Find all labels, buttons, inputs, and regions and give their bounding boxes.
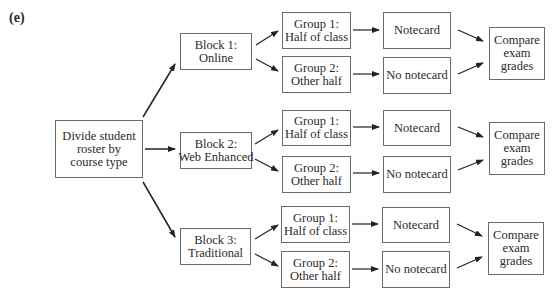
block-2-type: Web Enhanced: [179, 151, 254, 164]
flowchart-canvas: (e) Divide student roster by course type…: [0, 0, 553, 293]
b2-group-2-desc: Other half: [291, 175, 342, 188]
b2-group-1-desc: Half of class: [285, 128, 348, 141]
b2-group-2: Group 2: Other half: [282, 156, 351, 193]
block-1-online: Block 1: Online: [180, 33, 252, 70]
b2-notecard: Notecard: [383, 110, 451, 146]
b3-group-2: Group 2: Other half: [281, 251, 350, 288]
b2-no-notecard-label: No notecard: [386, 168, 447, 181]
b1-group-2-desc: Other half: [291, 75, 342, 88]
root-line-1: Divide student: [62, 130, 135, 143]
b3-no-notecard: No notecard: [382, 251, 450, 288]
b3-group-1-title: Group 1:: [293, 212, 338, 225]
b1-group-1-title: Group 1:: [294, 18, 339, 31]
b2-notecard-label: Notecard: [394, 122, 440, 135]
b3-notecard: Notecard: [382, 207, 450, 243]
b3-no-notecard-label: No notecard: [385, 263, 446, 276]
b3-compare-grades: Compare exam grades: [488, 222, 544, 275]
block-2-title: Block 2:: [195, 138, 238, 151]
b3-group-1-desc: Half of class: [284, 225, 347, 238]
root-line-3: course type: [70, 156, 127, 169]
block-3-traditional: Block 3: Traditional: [180, 228, 251, 265]
b3-group-2-title: Group 2:: [293, 257, 338, 270]
b2-group-2-title: Group 2:: [294, 162, 339, 175]
b1-no-notecard-label: No notecard: [386, 69, 447, 82]
b1-notecard: Notecard: [383, 12, 451, 49]
b3-group-2-desc: Other half: [290, 270, 341, 283]
b1-no-notecard: No notecard: [383, 57, 451, 94]
b1-group-2: Group 2: Other half: [282, 56, 351, 93]
b1-compare-line-3: grades: [501, 60, 534, 73]
b3-compare-line-3: grades: [500, 255, 533, 268]
root-box-divide-roster: Divide student roster by course type: [55, 120, 143, 178]
b1-group-1-desc: Half of class: [285, 31, 348, 44]
b2-compare-line-3: grades: [501, 155, 534, 168]
block-1-title: Block 1:: [195, 39, 238, 52]
b1-group-1: Group 1: Half of class: [282, 12, 351, 49]
b2-no-notecard: No notecard: [383, 156, 451, 193]
block-2-web-enhanced: Block 2: Web Enhanced: [180, 132, 252, 169]
block-3-type: Traditional: [188, 247, 243, 260]
block-3-title: Block 3:: [194, 234, 237, 247]
figure-label: (e): [9, 10, 25, 26]
block-1-type: Online: [199, 52, 233, 65]
b3-group-1: Group 1: Half of class: [281, 206, 350, 243]
b2-compare-grades: Compare exam grades: [489, 122, 545, 175]
b3-notecard-label: Notecard: [393, 219, 439, 232]
b1-compare-grades: Compare exam grades: [489, 27, 545, 80]
b1-notecard-label: Notecard: [394, 24, 440, 37]
root-line-2: roster by: [77, 143, 121, 156]
b2-group-1: Group 1: Half of class: [282, 110, 351, 146]
b1-group-2-title: Group 2:: [294, 62, 339, 75]
